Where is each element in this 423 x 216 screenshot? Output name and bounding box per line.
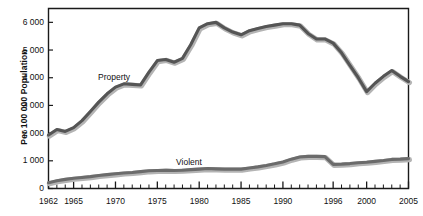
series-lines [49, 22, 410, 183]
series-label-violent: Violent [176, 157, 202, 167]
plot-area [0, 0, 423, 216]
series-label-property: Property [98, 72, 130, 82]
crime-rate-line-chart: Per 100 000 Population 01 0002 0003 0004… [0, 0, 423, 216]
